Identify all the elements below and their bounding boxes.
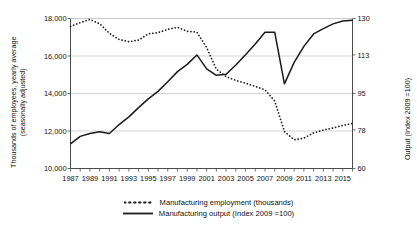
y-tick-label-right: 60 [358,164,388,173]
series-line-output [71,20,353,144]
y-tick-label-left: 10,000 [23,164,67,173]
legend-dashed-line-icon [124,199,154,206]
y-tick-label-right: 78 [358,126,388,135]
chart-container: Thousands of employees, yearly average (… [0,0,417,236]
y-tick-label-right: 95 [358,89,388,98]
data-series-group [71,19,353,143]
y-tick-label-right: 113 [358,51,388,60]
legend-solid-line-icon [123,210,153,217]
y-tick-label-right: 130 [358,14,388,23]
legend-item: Manufacturing output (Index 2009 =100) [123,209,294,218]
x-tick-label: 2015 [330,174,356,183]
legend-label: Manufacturing output (Index 2009 =100) [159,209,294,218]
y-tick-label-left: 14,000 [23,89,67,98]
legend-label: Manufacturing employment (thousands) [160,198,294,207]
legend-item: Manufacturing employment (thousands) [124,198,294,207]
y-tick-label-left: 16,000 [23,52,67,61]
chart-legend: Manufacturing employment (thousands)Manu… [0,198,417,218]
y-tick-label-left: 18,000 [23,14,67,23]
y-tick-label-left: 12,000 [23,127,67,136]
